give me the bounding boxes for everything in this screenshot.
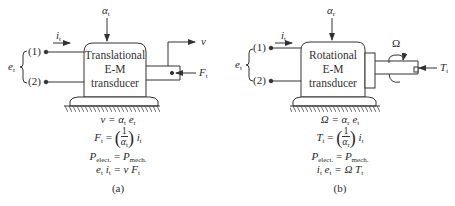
angular-velocity-label: Ω: [392, 38, 400, 49]
panel-a-caption: (a): [96, 183, 140, 194]
terminal-2-label: (2): [28, 76, 41, 87]
terminal-1-label: (1): [28, 46, 41, 57]
terminal-2-label: (2): [253, 75, 266, 86]
transducer-title: Rotational E-M transducer: [301, 48, 365, 90]
equation-energy: et it = v Ft: [76, 164, 160, 177]
panel-b-caption: (b): [318, 183, 362, 194]
transducer-base: [293, 97, 376, 106]
rotation-arrow: [389, 55, 399, 63]
diagram-drawing: [0, 0, 455, 206]
voltage-brace: [20, 51, 27, 83]
ground-hatch: [290, 106, 380, 112]
ground-hatch: [64, 106, 160, 112]
shaft-collar: [365, 53, 375, 88]
equation-force: Ft = (1αt) it: [76, 126, 160, 150]
force-label: Ft: [199, 67, 208, 80]
current-label: it: [56, 30, 61, 43]
equation-torque: Tt = (1αr) it: [298, 126, 382, 150]
transducer-base: [70, 97, 158, 106]
coupling-label-alpha-t: αt: [102, 5, 110, 18]
terminal-1-label: (1): [253, 42, 266, 53]
velocity-label: v: [201, 36, 206, 47]
coupling-label-alpha-r: αr: [327, 5, 335, 18]
equation-energy: it et = Ω Tt: [298, 164, 382, 177]
current-label: it: [281, 30, 286, 43]
transducer-title: Translational E-M transducer: [84, 48, 146, 90]
voltage-brace: [246, 49, 253, 81]
voltage-label: et: [235, 59, 242, 72]
voltage-label: et: [8, 61, 15, 74]
torque-label: Tt: [440, 62, 448, 75]
